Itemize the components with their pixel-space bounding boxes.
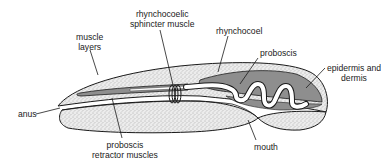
label-anus: anus: [18, 109, 37, 119]
label-rhynchocoel: rhynchocoel: [216, 26, 262, 36]
label-mouth: mouth: [254, 142, 278, 152]
label-line: dermis: [327, 73, 381, 83]
label-line: rhynchocoelic: [130, 9, 194, 19]
label-line: proboscis: [92, 140, 158, 150]
label-line: retractor muscles: [92, 150, 158, 160]
label-line: muscle: [76, 32, 103, 42]
label-retractor-muscles: proboscis retractor muscles: [92, 140, 158, 160]
label-line: layers: [76, 42, 103, 52]
label-line: sphincter muscle: [130, 19, 194, 29]
label-line: epidermis and: [327, 63, 381, 73]
label-muscle-layers: muscle layers: [76, 32, 103, 52]
label-epidermis-dermis: epidermis and dermis: [327, 63, 381, 83]
label-sphincter-muscle: rhynchocoelic sphincter muscle: [130, 9, 194, 29]
ventral-body-wall: [60, 101, 258, 133]
label-proboscis: proboscis: [260, 48, 297, 58]
ventral-anterior: [258, 111, 326, 130]
